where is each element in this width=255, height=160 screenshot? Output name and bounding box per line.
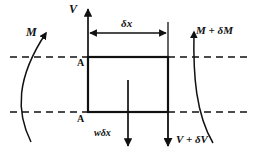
moment-right-label: M + δM xyxy=(196,25,233,36)
moment-left-curved-arrow xyxy=(21,33,46,142)
distributed-load-label: wδx xyxy=(94,128,111,138)
shear-left-label: V xyxy=(69,3,77,15)
free-body-diagram: V δx M M + δM A A wδx V + δV xyxy=(0,0,255,160)
section-label-top: A xyxy=(77,58,84,68)
element-length-label: δx xyxy=(121,18,132,29)
moment-right-curved-arrow xyxy=(194,32,213,143)
shear-right-label: V + δV xyxy=(176,134,208,145)
moment-left-label: M xyxy=(26,26,37,38)
section-label-bottom: A xyxy=(77,114,84,124)
